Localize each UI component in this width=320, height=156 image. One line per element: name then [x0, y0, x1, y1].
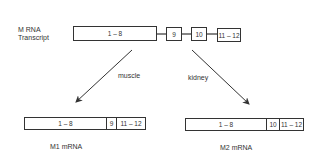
- exon-label: 11 – 12: [218, 32, 239, 39]
- m2-segment-10: 10: [266, 119, 279, 130]
- m1-segment-9: 9: [106, 118, 116, 129]
- m1-segment-11-12: 11 – 12: [116, 118, 145, 129]
- segment-label: 1 – 8: [219, 121, 233, 128]
- exon-box-9: 9: [166, 27, 182, 41]
- m2-segment-1-8: 1 – 8: [186, 119, 266, 130]
- transcript-label-line2: Transcript: [18, 34, 49, 42]
- transcript-label: M RNA Transcript: [18, 26, 49, 42]
- segment-label: 10: [269, 121, 276, 128]
- kidney-label: kidney: [188, 74, 208, 82]
- muscle-label: muscle: [118, 72, 140, 80]
- segment-label: 1 – 8: [58, 120, 72, 127]
- m1-segment-1-8: 1 – 8: [25, 118, 106, 129]
- diagram-connectors: [0, 0, 320, 156]
- m2-segment-11-12: 11 – 12: [279, 119, 303, 130]
- exon-box-10: 10: [191, 27, 207, 41]
- exon-label: 9: [172, 31, 176, 38]
- m2-mrna-label: M2 mRNA: [220, 144, 252, 152]
- transcript-label-line1: M RNA: [18, 26, 49, 34]
- exon-box-11-12: 11 – 12: [217, 28, 241, 42]
- m1-mrna-label: M1 mRNA: [50, 143, 82, 151]
- m2-mrna-box: 1 – 8 10 11 – 12: [185, 118, 304, 131]
- segment-label: 11 – 12: [120, 120, 141, 127]
- segment-label: 9: [110, 120, 114, 127]
- exon-box-1-8: 1 – 8: [73, 26, 157, 41]
- segment-label: 11 – 12: [281, 121, 302, 128]
- exon-label: 10: [195, 31, 202, 38]
- m1-mrna-box: 1 – 8 9 11 – 12: [24, 117, 146, 130]
- exon-label: 1 – 8: [108, 30, 122, 37]
